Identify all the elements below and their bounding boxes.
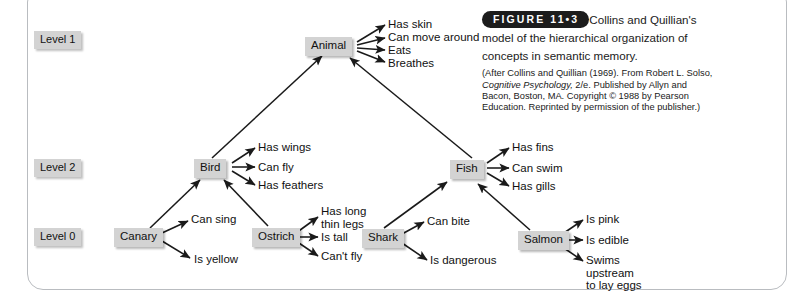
property-shark-can-bite: Can bite: [427, 215, 470, 228]
node-bird[interactable]: Bird: [194, 159, 226, 178]
edge-bird-has-wings: [232, 148, 255, 163]
property-salmon-is-edible: Is edible: [586, 234, 629, 247]
property-ostrich-has-long-thin-legs: Has long thin legs: [321, 205, 366, 230]
edge-fish-has-fins: [487, 148, 509, 163]
edge-fish-isa-animal: [350, 58, 472, 158]
property-animal-eats: Eats: [388, 44, 411, 57]
level-tag-level-2: Level 2: [34, 159, 81, 177]
level-tag-level-0: Level 0: [34, 228, 81, 246]
property-fish-has-fins: Has fins: [512, 141, 554, 154]
node-animal[interactable]: Animal: [305, 37, 352, 56]
figure-source: (After Collins and Quillian (1969). From…: [482, 68, 714, 114]
edge-shark-can-bite: [402, 222, 424, 234]
property-canary-is-yellow: Is yellow: [194, 253, 238, 266]
figure-caption: FIGURE 11•3Collins and Quillian's model …: [482, 10, 714, 114]
figure-number-badge: FIGURE 11•3: [482, 11, 589, 28]
edge-animal-breathes: [357, 51, 385, 62]
node-salmon[interactable]: Salmon: [518, 231, 569, 250]
property-fish-can-swim: Can swim: [512, 162, 562, 175]
node-fish[interactable]: Fish: [450, 160, 484, 179]
property-animal-can-move-around: Can move around: [388, 31, 479, 44]
edge-bird-has-feathers: [232, 171, 255, 185]
property-canary-can-sing: Can sing: [191, 213, 236, 226]
property-salmon-is-pink: Is pink: [586, 213, 619, 226]
level-tag-level-1: Level 1: [34, 31, 81, 49]
property-bird-has-feathers: Has feathers: [258, 179, 323, 192]
property-animal-breathes: Breathes: [388, 57, 434, 70]
node-ostrich[interactable]: Ostrich: [252, 228, 300, 247]
figure-source-italic-title: Cognitive Psychology,: [482, 80, 573, 90]
node-canary[interactable]: Canary: [114, 228, 163, 247]
figure-source-line-4: Reprinted by permission of the publisher…: [529, 102, 701, 112]
property-bird-has-wings: Has wings: [258, 141, 311, 154]
node-shark[interactable]: Shark: [362, 229, 404, 248]
property-salmon-swims-upstream: Swims upstream to lay eggs: [586, 254, 642, 292]
property-ostrich-cant-fly: Can't fly: [321, 250, 362, 263]
property-animal-has-skin: Has skin: [388, 18, 432, 31]
edge-shark-is-dangerous: [402, 243, 427, 260]
edge-canary-can-sing: [162, 221, 188, 233]
edge-canary-is-yellow: [162, 241, 190, 258]
edge-fish-has-gills: [487, 173, 509, 186]
property-shark-is-dangerous: Is dangerous: [430, 254, 497, 267]
property-ostrich-is-tall: Is tall: [321, 231, 348, 244]
figure-source-line-1: (After Collins and Quillian (1969). From…: [482, 68, 712, 78]
property-bird-can-fly: Can fly: [258, 161, 294, 174]
edge-animal-eats: [357, 48, 385, 50]
property-fish-has-gills: Has gills: [512, 180, 555, 193]
